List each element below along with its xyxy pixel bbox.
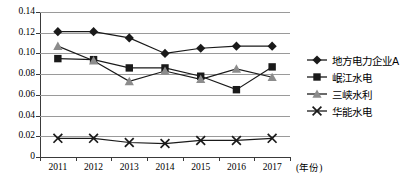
x-axis-tick-label: 2017 xyxy=(263,163,282,173)
legend-marker-square-icon xyxy=(306,70,328,84)
plot-area: 00.020.040.060.080.100.120.14 2011201220… xyxy=(40,12,290,157)
data-point xyxy=(233,86,240,93)
data-point xyxy=(53,42,62,50)
legend-item-2[interactable]: 岷江水电 xyxy=(306,69,418,85)
y-axis-tick-label: 0.06 xyxy=(18,90,35,100)
y-axis-tick-label: 0 xyxy=(30,152,35,162)
data-point xyxy=(268,63,275,70)
data-point xyxy=(54,55,61,62)
legend-label: 地方电力企业A xyxy=(332,53,399,68)
y-axis-tick-label: 0.08 xyxy=(18,69,35,79)
x-axis-tick-mark xyxy=(147,157,148,161)
x-axis-tick-label: 2012 xyxy=(84,163,103,173)
y-axis-tick-label: 0.10 xyxy=(18,49,35,59)
data-point xyxy=(126,64,133,71)
y-axis-tick-label: 0.04 xyxy=(18,111,35,121)
gridline xyxy=(40,157,290,158)
x-axis-tick-label: 2015 xyxy=(191,163,210,173)
x-axis-tick-mark xyxy=(254,157,255,161)
data-point xyxy=(268,42,277,51)
data-point xyxy=(232,64,241,72)
data-point xyxy=(232,42,241,51)
x-axis-tick-mark xyxy=(40,157,41,161)
data-point xyxy=(89,27,98,36)
series-1 xyxy=(53,27,276,58)
x-axis-tick-label: 2011 xyxy=(49,163,68,173)
legend-item-1[interactable]: 地方电力企业A xyxy=(306,52,418,68)
x-axis-tick-mark xyxy=(183,157,184,161)
x-axis-tick-label: 2016 xyxy=(227,163,246,173)
y-axis-tick-label: 0.14 xyxy=(18,7,35,17)
series-3 xyxy=(53,42,276,86)
x-axis-tick-mark xyxy=(219,157,220,161)
y-axis-tick-label: 0.02 xyxy=(18,132,35,142)
x-axis-label: (年份) xyxy=(296,160,322,174)
data-point xyxy=(160,49,169,58)
legend-marker-diamond-icon xyxy=(306,53,328,67)
series-layer xyxy=(40,12,290,157)
axes-area: 00.020.040.060.080.100.120.14 2011201220… xyxy=(40,12,290,157)
legend-item-4[interactable]: 华能水电 xyxy=(306,103,418,119)
x-axis-tick-mark xyxy=(290,157,291,161)
x-axis-tick-label: 2013 xyxy=(120,163,139,173)
data-point xyxy=(53,27,62,36)
legend: 地方电力企业A岷江水电三峡水利华能水电 xyxy=(306,52,418,120)
y-axis-tick-label: 0.12 xyxy=(18,28,35,38)
legend-label: 三峡水利 xyxy=(332,87,372,102)
legend-label: 华能水电 xyxy=(332,104,372,119)
legend-marker-triangle-icon xyxy=(306,87,328,101)
data-point xyxy=(196,44,205,53)
x-axis-tick-mark xyxy=(76,157,77,161)
x-axis-tick-mark xyxy=(111,157,112,161)
data-point xyxy=(125,33,134,42)
legend-marker-cross-icon xyxy=(306,104,328,118)
chart-figure: 00.020.040.060.080.100.120.14 2011201220… xyxy=(0,0,420,184)
legend-label: 岷江水电 xyxy=(332,70,372,85)
x-axis-tick-label: 2014 xyxy=(156,163,175,173)
series-4 xyxy=(53,134,276,148)
legend-item-3[interactable]: 三峡水利 xyxy=(306,86,418,102)
